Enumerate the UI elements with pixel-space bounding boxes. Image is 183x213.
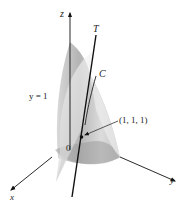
x-axis-label: x [9, 192, 14, 202]
y-axis [120, 157, 175, 181]
point-label: (1, 1, 1) [119, 115, 148, 125]
point-1-1-1 [80, 135, 84, 139]
y-axis-label: y [169, 175, 174, 185]
tangent-label: T [93, 23, 100, 34]
z-axis-label: z [59, 8, 64, 19]
origin-label: 0 [66, 143, 71, 153]
plane-label: y = 1 [29, 91, 48, 101]
x-axis [11, 157, 52, 190]
3d-diagram: z T C y = 1 (1, 1, 1) 0 x y [0, 0, 183, 213]
curve-label: C [99, 68, 106, 79]
